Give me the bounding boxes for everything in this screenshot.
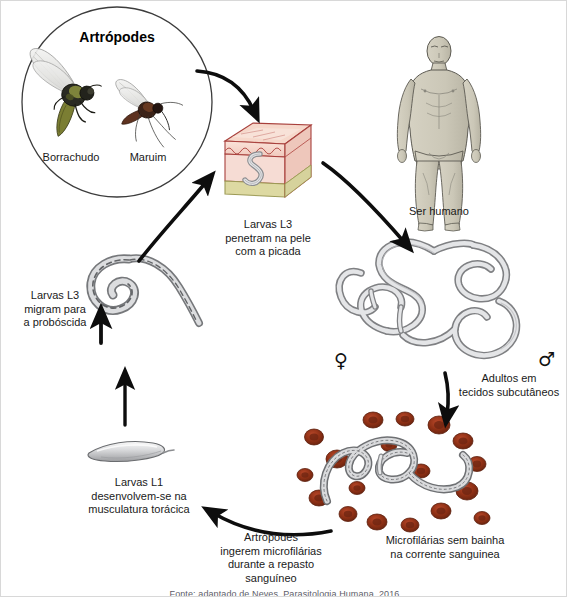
microfilaria-blood-icon [297,412,490,532]
lifecycle-diagram: Artrópodes Borrachudo Maruim Larvas L3 p… [0,0,567,597]
skin-block-icon [225,123,311,197]
human-body-icon [397,37,480,232]
arthropod-circle-title: Artrópodes [47,29,187,45]
vector-label-borrachudo: Borrachudo [29,151,113,165]
stage-label-ingestion: Artrópodes ingerem microfilárias durante… [197,531,345,585]
stage-label-human-host: Ser humano [393,205,485,219]
figure-caption: Fonte: adaptado de Neves, Parasitologia … [1,589,567,597]
stage-label-skin-penetration: Larvas L3 penetram na pele com a picada [208,218,328,259]
l1-larva-icon [88,441,174,461]
arrow-l3-to-bite [139,181,207,261]
l3-larva-icon [91,258,199,323]
adult-worms-icon [339,242,516,355]
female-symbol: ♀ [334,351,348,370]
arrow-skin-to-human [323,163,405,243]
stage-label-adults: Adultos em tecidos subcutâneos [451,372,567,399]
stage-label-microfilariae: Microfilárias sem bainha na corrente san… [354,534,536,561]
arrow-adults-to-microfilariae [445,373,448,415]
vector-label-maruim: Maruim [113,151,183,165]
stage-label-l1-larvae: Larvas L1 desenvolvem-se na musculatura … [63,476,215,517]
male-symbol: ♂ [538,350,555,369]
stage-label-l3-proboscis: Larvas L3 migram para a probóscida [11,289,99,330]
